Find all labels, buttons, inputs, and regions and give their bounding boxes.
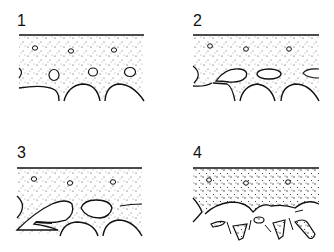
panel-2: 2 xyxy=(167,0,334,126)
panel-4-drawing xyxy=(167,126,334,252)
panel-3-drawing xyxy=(0,126,167,252)
panel-1: 1 xyxy=(0,0,167,126)
panel-2-drawing xyxy=(167,0,334,126)
panel-4: 4 xyxy=(167,126,334,252)
panel-1-drawing xyxy=(0,0,167,126)
panel-3: 3 xyxy=(0,126,167,252)
